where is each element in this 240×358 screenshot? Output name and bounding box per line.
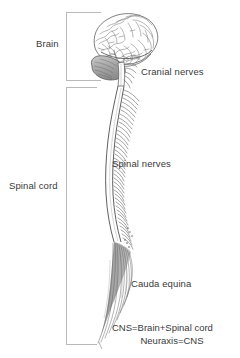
- label-brain: Brain: [36, 38, 59, 49]
- anatomy-illustration: [0, 0, 240, 358]
- caption-cns-definition: CNS=Brain+Spinal cord: [112, 322, 213, 335]
- spinal-cord-region-bracket: [66, 87, 97, 345]
- cns-anatomy-figure: Brain Spinal cord Cranial nerves Spinal …: [0, 0, 240, 358]
- brain-region-bracket: [66, 12, 101, 81]
- label-cauda-equina: Cauda equina: [131, 278, 191, 289]
- label-spinal-cord: Spinal cord: [9, 180, 58, 191]
- label-spinal-nerves: Spinal nerves: [112, 158, 171, 169]
- spinal-nerve-roots: [114, 90, 139, 249]
- label-cranial-nerves: Cranial nerves: [141, 66, 204, 77]
- caption-neuraxis-definition: Neuraxis=CNS: [112, 335, 232, 348]
- brainstem: [118, 62, 125, 86]
